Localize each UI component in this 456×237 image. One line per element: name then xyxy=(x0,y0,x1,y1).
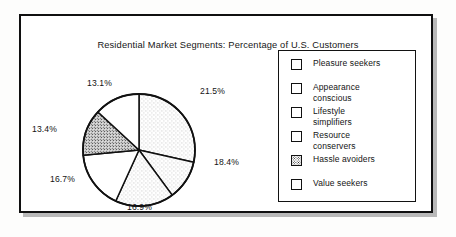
pie-label-16-9: 16.9% xyxy=(127,202,152,212)
legend-label-line1: Hassle avoiders xyxy=(313,154,375,164)
legend-item-hassle-avoiders[interactable]: Hassle avoiders xyxy=(279,154,415,178)
pie-chart: 21.5% 18.4% 16.9% 16.7% 13.4% 13.1% xyxy=(29,62,279,212)
chart-title: Residential Market Segments: Percentage … xyxy=(21,40,435,50)
legend-item-lifestyle-simplifiers[interactable]: Lifestyle simplifiers xyxy=(279,106,415,130)
pie-svg xyxy=(29,62,279,212)
legend-label: Lifestyle simplifiers xyxy=(313,106,352,128)
empty-swatch-icon xyxy=(291,59,302,70)
legend-item-value-seekers[interactable]: Value seekers xyxy=(279,178,415,202)
empty-swatch-icon xyxy=(291,107,302,118)
legend-label: Value seekers xyxy=(313,178,368,189)
legend-label-line1: Appearance xyxy=(313,82,360,92)
pie-label-21-5: 21.5% xyxy=(200,86,225,96)
legend-item-appearance-conscious[interactable]: Appearance conscious xyxy=(279,82,415,106)
legend-label: Resource conservers xyxy=(313,130,356,152)
legend-label: Hassle avoiders xyxy=(313,154,375,165)
pie-label-13-4: 13.4% xyxy=(32,124,57,134)
legend-label-line1: Pleasure seekers xyxy=(313,58,380,68)
empty-swatch-icon xyxy=(291,83,302,94)
empty-swatch-icon xyxy=(291,131,302,142)
stipple-swatch-icon xyxy=(291,155,302,166)
legend-label-line2: simplifiers xyxy=(313,117,352,128)
figure-frame: Residential Market Segments: Percentage … xyxy=(19,14,433,213)
legend-label-line1: Resource xyxy=(313,130,350,140)
legend-label: Appearance conscious xyxy=(313,82,360,104)
empty-swatch-icon xyxy=(291,179,302,190)
legend-label-line2: conservers xyxy=(313,141,356,152)
pie-label-16-7: 16.7% xyxy=(50,174,75,184)
legend-label-line1: Value seekers xyxy=(313,178,368,188)
legend-item-resource-conservers[interactable]: Resource conservers xyxy=(279,130,415,154)
figure-container: Residential Market Segments: Percentage … xyxy=(0,0,456,237)
legend-label-line2: conscious xyxy=(313,93,360,104)
pie-label-18-4: 18.4% xyxy=(214,157,239,167)
legend-box: Pleasure seekers Appearance conscious Li… xyxy=(278,50,416,202)
legend-item-pleasure-seekers[interactable]: Pleasure seekers xyxy=(279,58,415,82)
pie-label-13-1: 13.1% xyxy=(87,78,112,88)
legend-label: Pleasure seekers xyxy=(313,58,380,69)
legend-label-line1: Lifestyle xyxy=(313,106,345,116)
